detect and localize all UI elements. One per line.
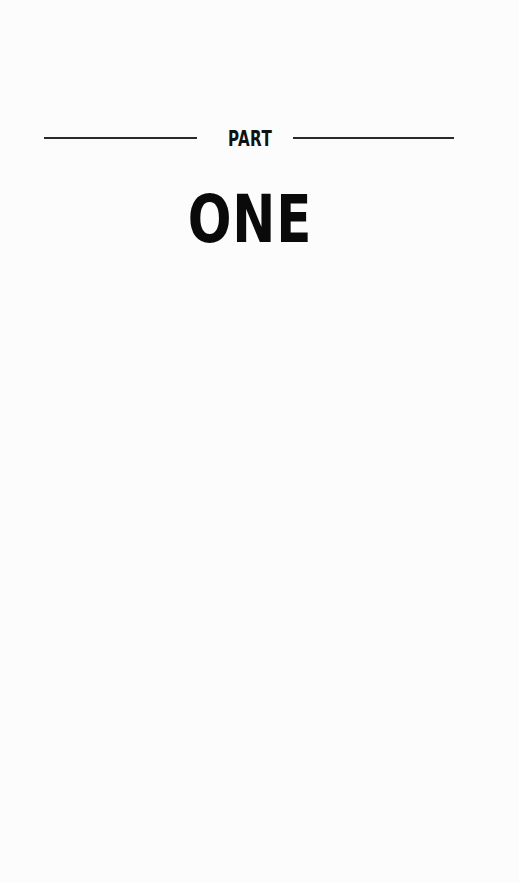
part-label: PART <box>214 127 286 151</box>
book-page: PART ONE <box>0 0 519 883</box>
part-number-heading: ONE <box>172 189 328 251</box>
left-rule-divider <box>44 137 197 139</box>
right-rule-divider <box>293 137 454 139</box>
